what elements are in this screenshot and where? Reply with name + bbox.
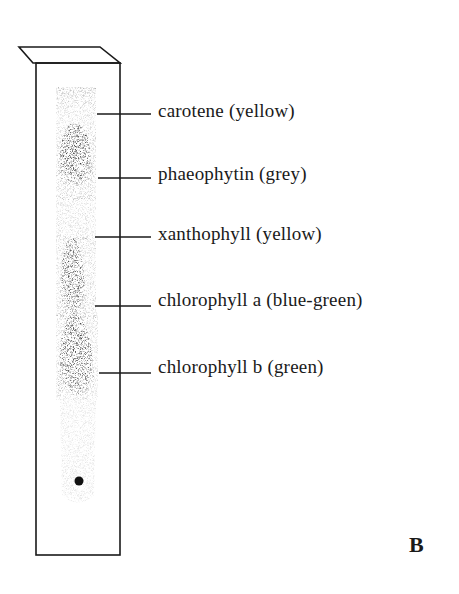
band-label-chlorophyll-b: chlorophyll b (green) [158,356,324,378]
panel-label: B [409,532,424,558]
strip-top [19,47,120,63]
leader-lines [95,114,151,373]
band-label-carotene: carotene (yellow) [158,100,295,122]
band-label-xanthophyll: xanthophyll (yellow) [158,223,322,245]
band-label-chlorophyll-a: chlorophyll a (blue-green) [158,289,363,311]
band-label-phaeophytin: phaeophytin (grey) [158,163,307,185]
pigment-column [56,87,98,503]
origin-spot [75,477,84,486]
